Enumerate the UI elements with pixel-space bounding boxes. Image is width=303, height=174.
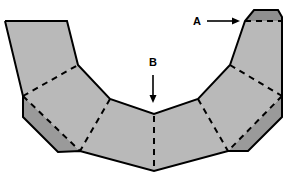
label-a: A — [193, 15, 201, 27]
arrowhead-down-icon — [150, 95, 157, 103]
unfolded-net-diagram: A B — [0, 0, 303, 174]
label-b: B — [149, 56, 157, 68]
label-b-group: B — [149, 56, 157, 103]
arrowhead-right-icon — [232, 18, 240, 25]
label-a-group: A — [193, 15, 240, 27]
